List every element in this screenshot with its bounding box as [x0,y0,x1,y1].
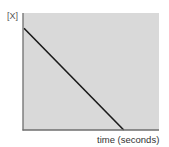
plot-area [23,13,159,130]
x-axis-label: time (seconds) [97,134,159,145]
chart: [X] time (seconds) [0,0,169,147]
y-axis-label: [X] [7,11,18,21]
chart-svg [0,0,169,147]
